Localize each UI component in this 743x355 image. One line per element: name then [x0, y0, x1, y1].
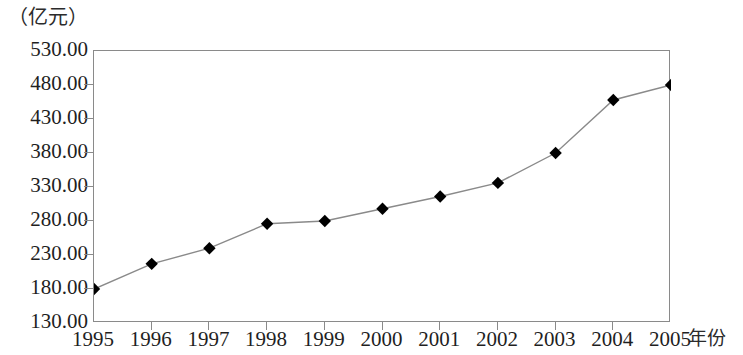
y-tick-mark: [84, 288, 93, 289]
plot-area: [93, 50, 670, 322]
x-tick-mark: [324, 322, 325, 330]
y-tick-label: 180.00: [2, 277, 88, 298]
x-tick-mark: [382, 322, 383, 330]
data-markers: [94, 79, 671, 295]
y-tick-label: 280.00: [2, 209, 88, 230]
data-point-marker: [492, 177, 504, 189]
y-tick-mark: [84, 84, 93, 85]
data-point-marker: [319, 215, 331, 227]
y-tick-mark: [84, 220, 93, 221]
y-tick-label: 330.00: [2, 175, 88, 196]
data-point-marker: [203, 242, 215, 254]
y-tick-label: 530.00: [2, 39, 88, 60]
y-tick-label: 480.00: [2, 73, 88, 94]
data-point-marker: [665, 79, 671, 91]
data-point-marker: [94, 283, 100, 295]
data-point-marker: [146, 258, 158, 270]
x-tick-mark: [208, 322, 209, 330]
y-tick-mark: [84, 186, 93, 187]
y-tick-mark: [84, 254, 93, 255]
x-tick-mark: [266, 322, 267, 330]
data-point-marker: [261, 218, 273, 230]
data-point-marker: [434, 190, 446, 202]
x-tick-label: 2005: [635, 327, 705, 351]
x-tick-mark: [151, 322, 152, 330]
y-tick-label: 380.00: [2, 141, 88, 162]
y-tick-mark: [84, 152, 93, 153]
data-line: [94, 85, 671, 289]
x-tick-mark: [612, 322, 613, 330]
y-tick-mark: [84, 118, 93, 119]
y-axis-tick-labels: 530.00480.00430.00380.00330.00280.00230.…: [0, 0, 88, 355]
data-point-marker: [376, 203, 388, 215]
line-chart: （亿元） 530.00480.00430.00380.00330.00280.0…: [0, 0, 743, 355]
x-tick-mark: [555, 322, 556, 330]
x-tick-mark: [439, 322, 440, 330]
plot-svg: [94, 51, 671, 323]
x-tick-mark: [497, 322, 498, 330]
y-tick-label: 230.00: [2, 243, 88, 264]
y-tick-label: 430.00: [2, 107, 88, 128]
